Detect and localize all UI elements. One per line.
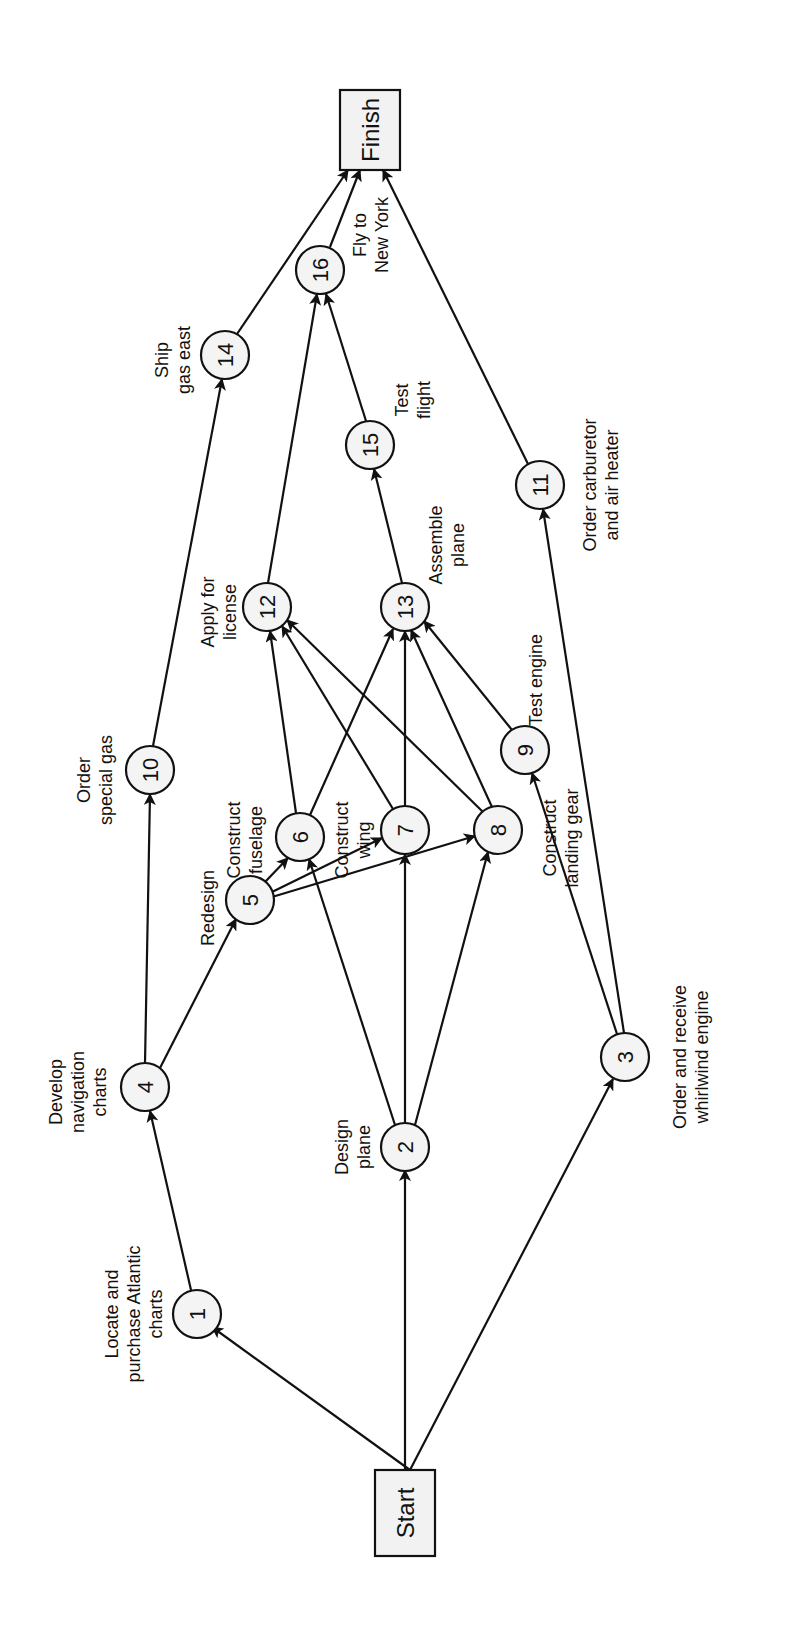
- label-15-line1: Test: [392, 383, 412, 416]
- edge-11-finish: [383, 170, 528, 464]
- label-7-line2: wing: [354, 821, 374, 859]
- label-12-line2: license: [220, 584, 240, 640]
- edge-2-8: [415, 852, 488, 1125]
- label-14-line2: gas east: [174, 326, 194, 394]
- svg-text:6: 6: [288, 831, 313, 843]
- edge-15-16: [326, 294, 366, 421]
- node-4: 4: [121, 1063, 169, 1111]
- edge-start-3: [410, 1079, 613, 1470]
- label-4-line1: Develop: [46, 1059, 66, 1125]
- node-16: 16: [296, 246, 344, 294]
- edge-3-11: [543, 509, 624, 1033]
- edge-13-15: [374, 469, 402, 583]
- svg-text:10: 10: [138, 758, 163, 782]
- label-9-line1: Test engine: [526, 634, 546, 726]
- label-8-line2: landing gear: [562, 788, 582, 887]
- label-14-line1: Ship: [152, 342, 172, 378]
- svg-text:3: 3: [613, 1051, 638, 1063]
- diagram-svg: Start Finish 1 2 3 4 5 6 7 8 9 10 11 12 …: [0, 0, 792, 1647]
- node-9: 9: [501, 726, 549, 774]
- svg-text:13: 13: [393, 595, 418, 619]
- svg-text:15: 15: [358, 433, 383, 457]
- svg-text:11: 11: [528, 474, 553, 497]
- svg-text:16: 16: [308, 258, 333, 282]
- label-1-line3: charts: [146, 1289, 166, 1338]
- edge-10-14: [153, 379, 222, 746]
- svg-text:4: 4: [133, 1081, 158, 1093]
- label-15-line2: flight: [414, 381, 434, 419]
- node-7: 7: [381, 806, 429, 854]
- edge-5-6: [265, 858, 288, 882]
- label-11-line1: Order carburetor: [580, 418, 600, 551]
- start-label: Start: [392, 1487, 419, 1538]
- svg-text:12: 12: [255, 595, 280, 619]
- label-6-line1: Construct: [224, 801, 244, 878]
- label-11-line2: and air heater: [602, 429, 622, 540]
- node-8: 8: [474, 806, 522, 854]
- label-1-line2: purchase Atlantic: [124, 1245, 144, 1382]
- svg-text:8: 8: [486, 824, 511, 836]
- edge-2-6: [309, 859, 395, 1125]
- finish-label: Finish: [357, 98, 384, 162]
- node-1: 1: [173, 1290, 221, 1338]
- label-10-line2: special gas: [96, 735, 116, 825]
- label-13-line1: Assemble: [426, 505, 446, 584]
- finish-terminal: Finish: [340, 90, 400, 170]
- edge-start-1: [212, 1327, 410, 1470]
- node-12: 12: [243, 583, 291, 631]
- label-6-line2: fuselage: [246, 806, 266, 874]
- label-8-line1: Construct: [540, 799, 560, 876]
- node-11: 11: [516, 461, 564, 509]
- node-15: 15: [346, 421, 394, 469]
- node-13: 13: [381, 583, 429, 631]
- label-7-line1: Construct: [332, 801, 352, 878]
- label-16-line1: Fly to: [350, 213, 370, 257]
- edge-12-16: [268, 294, 317, 583]
- node-5: 5: [226, 876, 274, 924]
- node-14: 14: [201, 331, 249, 379]
- svg-text:9: 9: [513, 744, 538, 756]
- label-12-line1: Apply for: [198, 576, 218, 647]
- label-4-line3: charts: [90, 1067, 110, 1116]
- node-3: 3: [601, 1033, 649, 1081]
- edge-9-13: [424, 621, 512, 730]
- svg-text:1: 1: [185, 1308, 210, 1320]
- label-16-line2: New York: [372, 196, 392, 273]
- label-3-line1: Order and receive: [670, 985, 690, 1129]
- label-2-line2: plane: [354, 1125, 374, 1169]
- label-1-line1: Locate and: [102, 1269, 122, 1358]
- label-4-line2: navigation: [68, 1051, 88, 1133]
- network-diagram: Start Finish 1 2 3 4 5 6 7 8 9 10 11 12 …: [0, 0, 792, 1647]
- edge-4-10: [145, 794, 150, 1063]
- node-6: 6: [276, 813, 324, 861]
- edge-6-12: [270, 631, 296, 813]
- label-2-line1: Design: [332, 1119, 352, 1175]
- label-13-line2: plane: [448, 523, 468, 567]
- svg-text:5: 5: [238, 894, 263, 906]
- svg-text:2: 2: [393, 1141, 418, 1153]
- svg-text:14: 14: [213, 343, 238, 367]
- node-10: 10: [126, 746, 174, 794]
- start-terminal: Start: [375, 1470, 435, 1556]
- node-2: 2: [381, 1123, 429, 1171]
- edge-1-4: [150, 1111, 191, 1290]
- svg-text:7: 7: [393, 824, 418, 836]
- label-5-line1: Redesign: [198, 870, 218, 946]
- label-3-line2: whirlwind engine: [692, 990, 712, 1124]
- edge-7-12: [282, 626, 393, 809]
- label-10-line1: Order: [74, 757, 94, 803]
